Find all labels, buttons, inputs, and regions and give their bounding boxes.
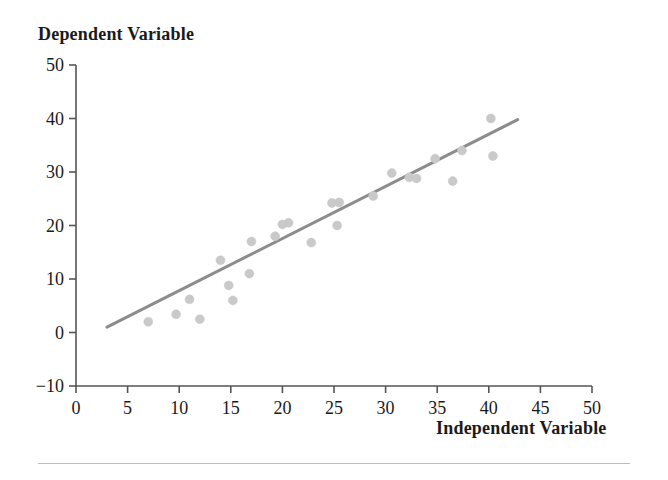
y-tick-label: 30: [46, 162, 64, 182]
scatter-plot-figure: Dependent Variable −10010203040500510152…: [0, 0, 668, 480]
x-tick-label: 45: [531, 398, 549, 418]
data-point: [271, 232, 280, 241]
x-tick-label: 40: [480, 398, 498, 418]
x-tick-label: 15: [222, 398, 240, 418]
trendline-layer: [107, 120, 518, 328]
data-point: [486, 114, 495, 123]
x-axis-label: Independent Variable: [436, 418, 607, 439]
x-tick-label: 35: [428, 398, 446, 418]
x-tick-label: 50: [583, 398, 601, 418]
x-tick-label: 5: [123, 398, 132, 418]
x-tick-label: 30: [377, 398, 395, 418]
data-point: [387, 169, 396, 178]
data-point: [457, 146, 466, 155]
y-tick-label: 10: [46, 269, 64, 289]
y-tick-label: −10: [36, 376, 64, 396]
data-point: [144, 317, 153, 326]
data-point: [284, 218, 293, 227]
data-point: [172, 310, 181, 319]
x-tick-label: 0: [72, 398, 81, 418]
data-point: [307, 238, 316, 247]
y-tick-label: 0: [55, 323, 64, 343]
plot-area: −100102030405005101520253035404550: [0, 0, 668, 480]
data-point: [333, 221, 342, 230]
x-tick-label: 10: [170, 398, 188, 418]
data-point: [335, 198, 344, 207]
data-point: [195, 315, 204, 324]
data-point: [448, 177, 457, 186]
data-point: [431, 154, 440, 163]
tick-labels-layer: −100102030405005101520253035404550: [36, 55, 601, 418]
data-point: [228, 296, 237, 305]
data-point: [412, 174, 421, 183]
bottom-divider: [38, 463, 630, 464]
y-tick-label: 50: [46, 55, 64, 75]
x-tick-label: 25: [325, 398, 343, 418]
y-tick-label: 40: [46, 109, 64, 129]
data-point: [488, 151, 497, 160]
data-point: [216, 256, 225, 265]
trendline: [107, 120, 518, 328]
data-point: [185, 295, 194, 304]
data-point: [224, 281, 233, 290]
x-tick-label: 20: [273, 398, 291, 418]
y-tick-label: 20: [46, 216, 64, 236]
data-point: [247, 237, 256, 246]
data-point: [245, 269, 254, 278]
data-point: [369, 192, 378, 201]
axis-layer: [69, 65, 592, 393]
